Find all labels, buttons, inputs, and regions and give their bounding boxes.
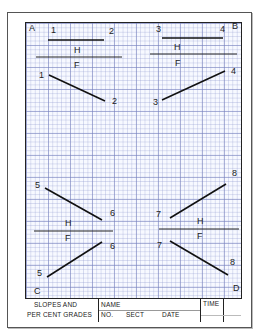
date-field-label: DATE (162, 312, 180, 319)
view-label-h: H (174, 43, 181, 52)
number-field-label: NO. (101, 312, 113, 319)
point-label-8-front: 8 (230, 258, 235, 267)
point-label-8-top: 8 (232, 169, 237, 178)
corner-label-d: D (233, 284, 240, 293)
point-label-7-front: 7 (157, 241, 162, 250)
time-field-label: TIME (203, 301, 219, 308)
section-field-label: SECT (126, 312, 144, 319)
point-label-6-front: 6 (110, 242, 115, 251)
title-block: SLOPES AND PER CENT GRADES NAME NO. SECT… (25, 298, 242, 322)
view-label-f: F (175, 59, 181, 68)
point-label-6-top: 6 (110, 209, 115, 218)
line-7-8-horizontal-view (170, 184, 226, 218)
view-label-f: F (65, 234, 71, 243)
sheet-title-line2: PER CENT GRADES (27, 312, 92, 319)
title-block-row-divider (99, 310, 200, 311)
point-label-1-top: 1 (51, 26, 56, 35)
view-label-f: F (197, 232, 203, 241)
line-3-4-front-view (162, 71, 225, 100)
point-label-2-top: 2 (109, 27, 114, 36)
line-7-8-front-view (170, 241, 228, 275)
line-5-6-horizontal-view (45, 188, 102, 220)
view-label-h: H (74, 46, 81, 55)
name-field-label: NAME (101, 302, 121, 309)
point-label-4-front: 4 (231, 67, 236, 76)
view-label-f: F (74, 61, 80, 70)
line-5-6-front-view (47, 242, 102, 277)
point-label-3-top: 3 (156, 25, 161, 34)
view-label-h: H (65, 219, 72, 228)
point-label-5-front: 5 (37, 269, 42, 278)
point-label-5-top: 5 (35, 181, 40, 190)
point-label-3-front: 3 (153, 98, 158, 107)
title-block-divider (223, 299, 224, 322)
corner-label-a: A (29, 24, 35, 33)
corner-label-b: B (232, 22, 238, 31)
title-block-row-divider (201, 315, 241, 316)
point-label-1-front: 1 (39, 71, 44, 80)
corner-label-c: C (34, 287, 41, 296)
point-label-2-front: 2 (112, 97, 117, 106)
point-label-7-top: 7 (156, 210, 161, 219)
title-block-divider (200, 299, 201, 322)
sheet-title-line1: SLOPES AND (34, 302, 77, 309)
line-1-2-front-view (49, 75, 105, 101)
view-label-h: H (197, 217, 204, 226)
point-label-4-top: 4 (220, 25, 225, 34)
